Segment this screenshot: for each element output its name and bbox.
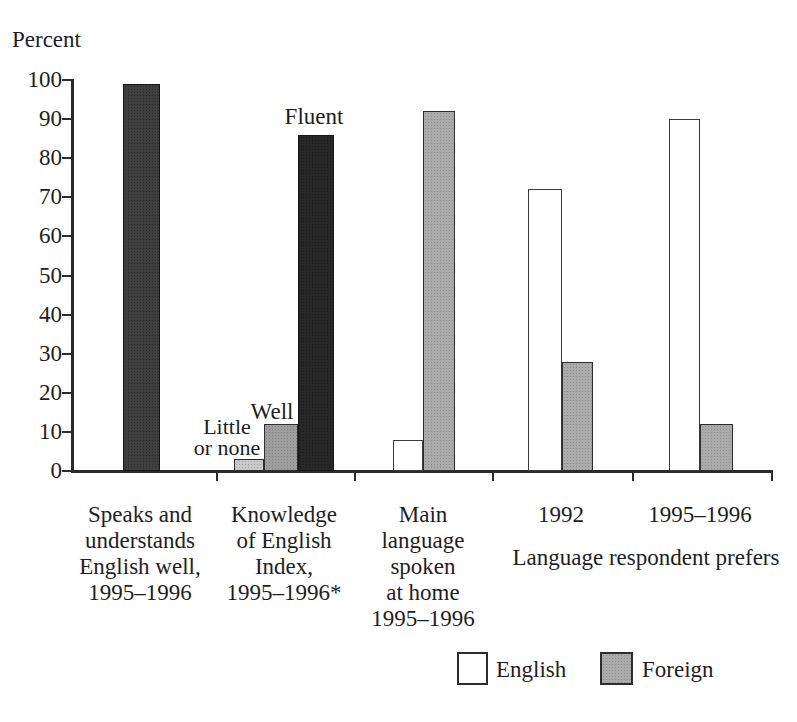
bar-little-or-none [234, 459, 264, 471]
bar-english [669, 119, 700, 471]
y-axis-tick-label: 20 [0, 381, 62, 405]
bar-speaks-and-understands-english-well [123, 84, 160, 471]
bar-foreign [423, 111, 455, 471]
bar-well [264, 424, 298, 471]
x-axis-tick [354, 470, 356, 481]
y-axis-tick-label: 60 [0, 224, 62, 248]
y-axis-tick-label: 70 [0, 185, 62, 209]
x-axis-tick [632, 470, 634, 481]
legend-label-foreign: Foreign [642, 657, 714, 683]
bar-fluent [298, 135, 334, 471]
y-axis-tick-label: 10 [0, 420, 62, 444]
x-axis-tick [216, 470, 218, 481]
y-axis-tick [62, 431, 71, 433]
y-axis-tick [62, 235, 71, 237]
x-axis-group-footer: Language respondent prefers [500, 545, 792, 571]
y-axis-tick-label: 30 [0, 342, 62, 366]
y-axis-title: Percent [12, 27, 81, 53]
y-axis-tick [62, 118, 71, 120]
bar-english [528, 189, 562, 471]
y-axis-tick-label: 0 [0, 459, 62, 483]
x-axis-group-label-line: 1995–1996 [610, 502, 790, 528]
y-axis-tick [62, 353, 71, 355]
bar-foreign [700, 424, 733, 471]
y-axis-tick-label: 100 [0, 68, 62, 92]
bar-foreign [562, 362, 593, 471]
annotation-fluent: Fluent [274, 104, 354, 130]
bar-english [393, 440, 423, 471]
x-axis-group-label-line: spoken [333, 554, 513, 580]
y-axis-tick [62, 79, 71, 81]
y-axis-tick-label: 80 [0, 146, 62, 170]
legend-label-english: English [496, 657, 566, 683]
y-axis-tick [62, 275, 71, 277]
x-axis-tick [771, 470, 773, 481]
y-axis-tick [62, 157, 71, 159]
y-axis-tick [62, 470, 71, 472]
x-axis-tick [492, 470, 494, 481]
y-axis-line [71, 79, 74, 473]
x-axis-group-label-line: at home [333, 580, 513, 606]
y-axis-tick-label: 50 [0, 264, 62, 288]
y-axis-tick-label: 90 [0, 107, 62, 131]
x-axis-group-label-line: language [333, 528, 513, 554]
y-axis-tick-label: 40 [0, 303, 62, 327]
x-axis-group-label: 1995–1996 [610, 502, 790, 528]
legend-swatch-foreign [600, 652, 633, 685]
y-axis-tick [62, 314, 71, 316]
legend-swatch-english [457, 652, 488, 685]
y-axis-tick [62, 196, 71, 198]
x-axis-group-label-line: 1995–1996 [333, 606, 513, 632]
bar-chart-figure: Percent Fluent Well Little or none Langu… [0, 0, 797, 722]
y-axis-tick [62, 392, 71, 394]
